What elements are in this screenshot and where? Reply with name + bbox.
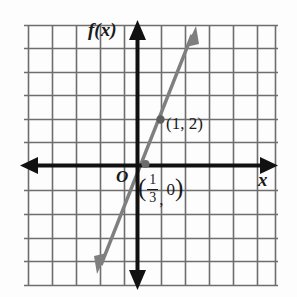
open-paren: ( — [138, 177, 146, 200]
fraction-one-third: 1 3 — [147, 173, 158, 206]
point-label-one-third-0: ( 1 3 , 0 ) — [138, 173, 183, 206]
grid-lines — [24, 25, 278, 286]
y-axis-label: f(x) — [88, 20, 116, 39]
point-marker-1-2 — [156, 115, 164, 123]
graph-canvas — [0, 0, 297, 297]
line-arrowhead-up — [186, 26, 199, 47]
x-axis-label: x — [258, 170, 268, 189]
fraction-numerator: 1 — [147, 173, 158, 188]
point-label-1-2: (1, 2) — [166, 115, 203, 132]
y-axis-arrow-down — [129, 270, 146, 290]
grid-lines-vertical — [29, 25, 276, 285]
grid-lines-horizontal — [24, 26, 278, 286]
fraction-denominator: 3 — [147, 191, 158, 206]
point-marker-one-third-0 — [142, 160, 150, 168]
coordinate-plane-figure: f(x) x O (1, 2) ( 1 3 , 0 ) — [0, 0, 297, 297]
function-line — [94, 26, 199, 274]
y-value: 0 — [167, 181, 176, 198]
comma-separator: , — [159, 191, 163, 208]
y-axis-arrow-up — [129, 20, 146, 40]
origin-label: O — [116, 168, 128, 185]
close-paren: ) — [175, 177, 183, 200]
